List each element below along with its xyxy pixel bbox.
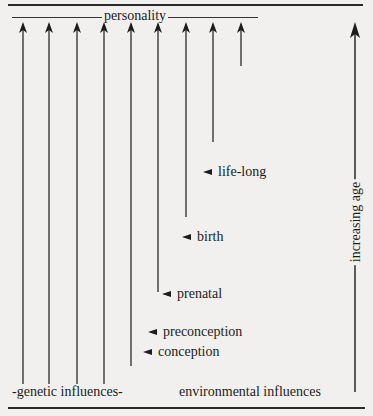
- stage-label: life-long: [203, 164, 266, 180]
- pointer-icon: [148, 329, 157, 335]
- pointer-icon: [143, 349, 152, 355]
- bottom-rule: [8, 407, 365, 409]
- increasing-age-label: increasing age: [348, 179, 364, 265]
- pointer-icon: [203, 169, 212, 175]
- stage-text: conception: [158, 344, 219, 360]
- environmental-influences-label: environmental influences: [179, 384, 321, 400]
- stage-text: preconception: [163, 324, 242, 340]
- stage-label: conception: [143, 344, 219, 360]
- stage-text: life-long: [218, 164, 266, 180]
- stage-label: prenatal: [162, 286, 222, 302]
- stage-label: preconception: [148, 324, 242, 340]
- pointer-icon: [162, 291, 171, 297]
- genetic-influences-label: -genetic influences-: [12, 384, 123, 400]
- pointer-icon: [182, 234, 191, 240]
- stage-text: birth: [197, 229, 223, 245]
- stage-label: birth: [182, 229, 223, 245]
- stage-text: prenatal: [177, 286, 222, 302]
